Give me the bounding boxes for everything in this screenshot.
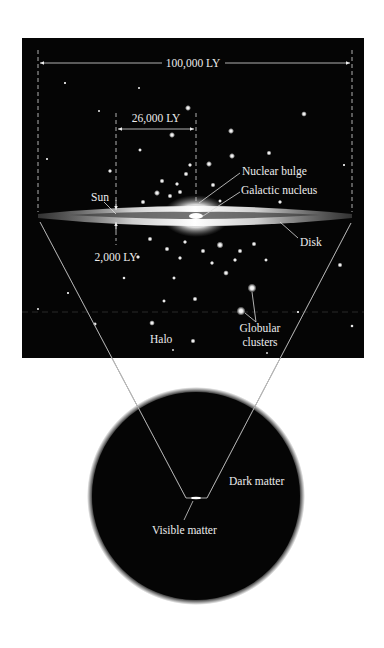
globular-clusters-label-line2: clusters (242, 336, 278, 348)
sun-label: Sun (91, 191, 109, 203)
visible-matter-label: Visible matter (152, 524, 217, 536)
globular-clusters-label-line1: Globular (240, 322, 281, 334)
sun-distance-label: 26,000 LY (132, 112, 181, 125)
galaxy-panel: 100,000 LY 26,000 LY 2,000 LY Sun Nuclea… (22, 38, 364, 358)
dark-matter-label: Dark matter (229, 475, 284, 487)
milky-way-diagram: 100,000 LY 26,000 LY 2,000 LY Sun Nuclea… (0, 0, 384, 648)
galaxy-diameter-label: 100,000 LY (166, 57, 221, 70)
visible-matter-disk (191, 497, 201, 499)
halo-label: Halo (150, 333, 173, 345)
dark-matter-halo (87, 387, 305, 605)
nuclear-bulge-label: Nuclear bulge (242, 165, 307, 178)
disk-label: Disk (300, 236, 322, 248)
galactic-nucleus-label: Galactic nucleus (241, 184, 318, 196)
disk-thickness-label: 2,000 LY (95, 251, 139, 264)
